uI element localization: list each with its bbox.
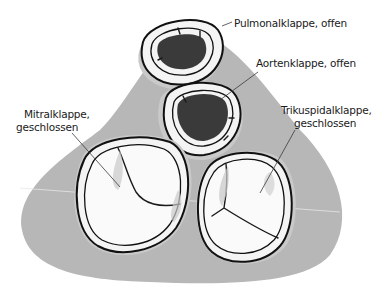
- label-aortenklappe: Aortenklappe, offen: [256, 57, 356, 69]
- label-pulmonalklappe: Pulmonalklappe, offen: [234, 17, 347, 29]
- leader-pulmonal: [222, 22, 232, 26]
- heart-valves-diagram: Pulmonalklappe, offen Aortenklappe, offe…: [0, 0, 379, 295]
- label-mitralklappe: Mitralklappe, geschlossen: [16, 108, 93, 133]
- label-trikuspidalklappe: Trikuspidalklappe, geschlossen: [280, 104, 375, 129]
- tricuspid-valve: [196, 151, 296, 264]
